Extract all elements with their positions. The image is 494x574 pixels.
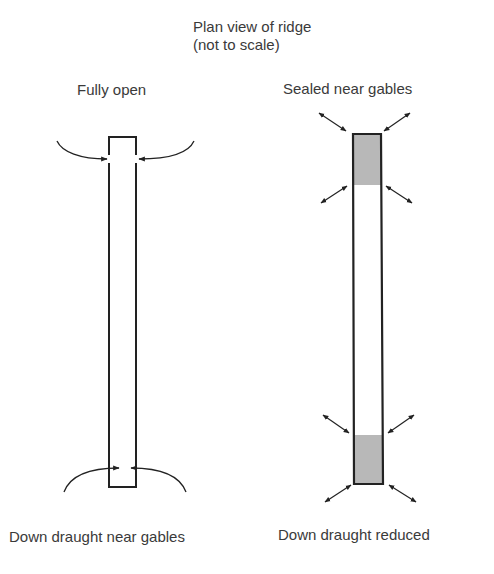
curved-arrow-icon <box>57 141 107 159</box>
curved-arrow-icon <box>64 468 119 492</box>
double-arrow-icon <box>384 113 410 131</box>
double-arrow-icon <box>321 186 347 203</box>
double-arrow-icon <box>386 186 412 203</box>
fully-open-ridge <box>108 137 137 487</box>
top-down-draught-arrows <box>57 141 194 159</box>
double-arrow-icon <box>389 485 416 502</box>
ridge-outline <box>353 134 383 484</box>
double-arrow-icon <box>325 485 351 502</box>
sealed-ridge <box>353 134 383 484</box>
curved-arrow-icon <box>139 141 194 159</box>
double-arrow-icon <box>319 113 346 131</box>
bottom-seal-shading <box>354 435 382 484</box>
ridge-plan-diagram <box>0 0 494 574</box>
double-arrow-icon <box>388 415 414 433</box>
bottom-down-draught-arrows <box>64 468 186 492</box>
ridge-top-end <box>109 137 136 155</box>
double-arrow-icon <box>323 415 349 433</box>
curved-arrow-icon <box>131 468 186 492</box>
top-seal-shading <box>353 135 381 185</box>
